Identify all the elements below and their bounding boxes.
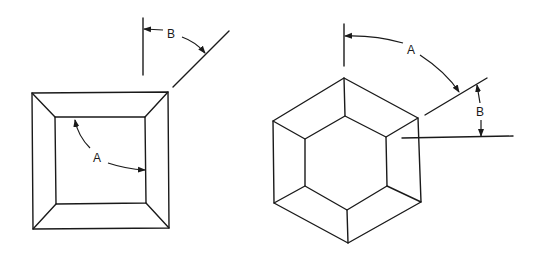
angle-a-arrow-right bbox=[108, 163, 145, 170]
angle-a-arrow-right bbox=[420, 55, 459, 92]
corner-edge-bl bbox=[33, 204, 56, 229]
hex-edge-top bbox=[344, 78, 345, 116]
angle-b-label: B bbox=[167, 27, 175, 41]
angle-a-label: A bbox=[93, 151, 101, 165]
angle-b-arrow-left bbox=[144, 29, 163, 30]
hex-edge-bottom bbox=[347, 210, 348, 243]
square-figure: B A bbox=[32, 18, 229, 229]
angle-a-arrow-up bbox=[75, 120, 90, 148]
angle-b-arrow-up bbox=[477, 85, 480, 103]
corner-edge-tl bbox=[32, 93, 55, 117]
angle-a-arrow-left bbox=[345, 36, 403, 43]
diagonal-reference-line bbox=[173, 31, 229, 87]
corner-edge-tr bbox=[145, 92, 168, 117]
angle-b-arrow-right bbox=[182, 37, 205, 53]
hex-edge-upper-left bbox=[273, 121, 305, 139]
hex-edge-upper-right bbox=[386, 118, 418, 137]
angle-a-label: A bbox=[407, 43, 415, 57]
diagram-canvas: B A A B bbox=[0, 0, 539, 260]
hex-edge-lower-left bbox=[274, 186, 305, 203]
angle-b-label: B bbox=[476, 105, 484, 119]
hexagon-figure: A B bbox=[273, 24, 513, 243]
hexagon-inner bbox=[305, 116, 387, 210]
corner-edge-br bbox=[146, 203, 169, 228]
hex-edge-lower-right bbox=[387, 186, 421, 202]
